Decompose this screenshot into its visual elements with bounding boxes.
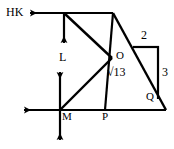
label-point-q: Q: [146, 91, 154, 102]
label-point-o: O: [116, 50, 124, 61]
figure-canvas: [0, 0, 174, 149]
label-three: 3: [162, 66, 168, 78]
segment-top-vertex-to-O: [64, 13, 112, 58]
geometry-figure: HK L O √13 2 3 Q M P: [0, 0, 174, 149]
label-point-m: M: [62, 111, 72, 122]
label-point-p: P: [102, 111, 108, 122]
label-hk: HK: [6, 6, 23, 18]
label-l: L: [59, 51, 66, 63]
label-root13: √13: [107, 66, 126, 78]
label-two: 2: [141, 29, 147, 41]
segment-O-to-M: [60, 58, 112, 110]
